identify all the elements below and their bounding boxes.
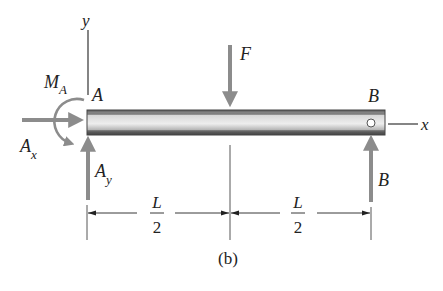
y-axis: y bbox=[80, 11, 90, 95]
moment-ma-label: M bbox=[43, 72, 60, 92]
dimension-left-denominator: 2 bbox=[153, 218, 162, 237]
free-body-diagram: y x A B F Ax Ay MA bbox=[0, 0, 443, 291]
dimension-right-numerator: L bbox=[292, 193, 302, 212]
x-axis-label: x bbox=[420, 115, 429, 134]
force-f-label: F bbox=[239, 44, 252, 64]
reaction-ax-subscript: x bbox=[30, 147, 37, 162]
svg-text:MA: MA bbox=[43, 72, 67, 97]
reaction-ay-subscript: y bbox=[104, 172, 112, 187]
dimension-left: L 2 bbox=[150, 193, 164, 237]
pin-hole-icon bbox=[367, 119, 375, 127]
reaction-ay: Ay bbox=[88, 143, 112, 200]
svg-text:Ay: Ay bbox=[94, 161, 112, 187]
dimension-lines: L 2 L 2 bbox=[87, 145, 371, 240]
dimension-left-numerator: L bbox=[151, 193, 161, 212]
moment-ma: MA bbox=[43, 72, 84, 143]
moment-ma-subscript: A bbox=[58, 82, 67, 97]
x-axis: x bbox=[388, 115, 429, 134]
force-f: F bbox=[230, 44, 252, 100]
reaction-b-label: B bbox=[378, 170, 389, 190]
beam bbox=[87, 110, 385, 135]
dimension-right-denominator: 2 bbox=[294, 218, 303, 237]
reaction-b: B bbox=[371, 142, 389, 202]
dimension-right: L 2 bbox=[291, 193, 305, 237]
point-a-label: A bbox=[91, 85, 104, 105]
y-axis-label: y bbox=[80, 11, 90, 30]
figure-caption: (b) bbox=[218, 249, 238, 268]
svg-text:Ax: Ax bbox=[19, 136, 37, 162]
point-b-label: B bbox=[368, 86, 379, 106]
